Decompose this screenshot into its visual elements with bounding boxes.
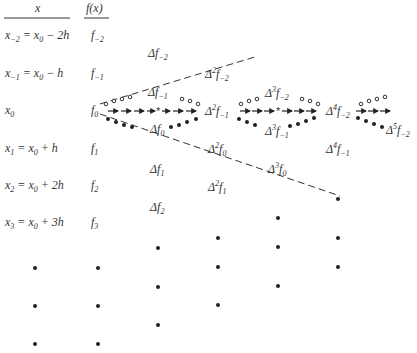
difference-labels: Δf−2 Δf−1 Δf0 Δf1 Δf2 Δ2f−2 Δ2f−1 Δ2f0 Δ… [147, 46, 410, 216]
x-row--2: x−2 = x0 − 2h [4, 28, 69, 44]
f-row-1: f1 [91, 141, 98, 157]
f-row-0: f0 [91, 103, 98, 119]
delta2-f-0: Δ2f0 [207, 141, 226, 158]
delta-f-2: Δf2 [149, 200, 164, 216]
f-column: f−2 f−1 f0 f1 f2 f3 [91, 28, 104, 231]
asterisk-marker-1: * [156, 105, 161, 117]
continuation-dots [33, 197, 340, 346]
delta3-f-0: Δ3f0 [267, 161, 286, 178]
delta3-f--2: Δ3f−2 [264, 85, 289, 102]
delta4-f--1: Δ4f−1 [325, 141, 350, 158]
header-x: x [34, 1, 41, 15]
f-row-2: f2 [91, 178, 98, 194]
delta2-f--1: Δ2f−1 [204, 103, 229, 120]
x-row-0: x0 [4, 103, 14, 119]
delta2-f-1: Δ2f1 [207, 179, 226, 196]
f-row-3: f3 [91, 215, 98, 231]
f-row--2: f−2 [91, 28, 104, 44]
x-row--1: x−1 = x0 − h [4, 66, 63, 82]
delta5-f--2: Δ5f−2 [385, 122, 410, 139]
x-row-2: x2 = x0 + 2h [4, 178, 64, 194]
x-row-1: x1 = x0 + h [4, 141, 58, 157]
x-column: x−2 = x0 − 2h x−1 = x0 − h x0 x1 = x0 + … [4, 28, 69, 231]
f-row--1: f−1 [91, 66, 104, 82]
dashed-line-upper [100, 56, 258, 104]
delta-f--1: Δf−1 [147, 85, 168, 101]
x-row-3: x3 = x0 + 3h [4, 215, 64, 231]
open-circle-path [104, 95, 387, 106]
difference-table-diagram: x f(x) x−2 = x0 − 2h x−1 = x0 − h x0 x1 … [0, 0, 417, 353]
asterisk-marker-2: * [276, 105, 281, 117]
delta4-f--2: Δ4f−2 [325, 103, 350, 120]
delta3-f--1: Δ3f−1 [264, 123, 289, 140]
header-fx: f(x) [86, 1, 103, 15]
delta-f-0: Δf0 [149, 122, 164, 138]
delta-f--2: Δf−2 [147, 46, 168, 62]
delta-f-1: Δf1 [149, 162, 164, 178]
